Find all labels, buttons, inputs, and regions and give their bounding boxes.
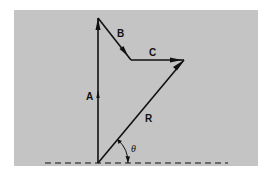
vector-c-arrowhead (170, 58, 182, 63)
theta-arc-arrow-bottom (126, 156, 131, 163)
vector-a-label: A (86, 91, 93, 102)
theta-arc (118, 140, 128, 163)
vector-r-arrowhead (173, 60, 184, 71)
vector-diagram: A B C R θ (0, 0, 272, 177)
vector-a-mid-arrow (96, 90, 99, 98)
vector-b-label: B (117, 28, 124, 39)
vector-r (98, 60, 184, 163)
vector-r-label: R (145, 113, 153, 124)
vector-c-label: C (149, 47, 156, 58)
theta-label: θ (131, 143, 136, 154)
